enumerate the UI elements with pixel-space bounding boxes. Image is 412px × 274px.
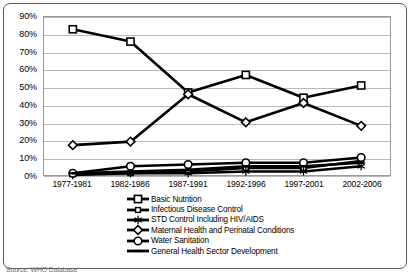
- data-point-marker: [358, 82, 365, 89]
- legend-item-label: Basic Nutrition: [151, 195, 202, 204]
- legend-item[interactable]: Basic Nutrition: [126, 194, 396, 204]
- chart-figure: 0%10%20%30%40%50%60%70%80%90% 1977-19811…: [0, 0, 412, 274]
- legend-item[interactable]: General Health Sector Development: [126, 246, 396, 256]
- data-point-marker: [134, 196, 141, 203]
- data-point-marker: [136, 207, 141, 212]
- x-axis-tick-label: 1982-1986: [111, 179, 150, 190]
- data-point-marker: [357, 154, 365, 162]
- legend-dash-icon: [126, 246, 150, 256]
- series-line: [73, 94, 361, 145]
- x-axis: 1977-19811982-19861987-19911992-19961997…: [43, 179, 391, 193]
- data-point-marker: [242, 71, 249, 78]
- data-point-marker: [68, 141, 77, 150]
- data-point-marker: [241, 118, 250, 127]
- y-axis-tick-label: 90%: [19, 12, 37, 21]
- x-axis-tick-label: 1987-1991: [169, 179, 208, 190]
- legend-item-label: Maternal Health and Perinatal Conditions: [151, 226, 294, 235]
- legend-item[interactable]: Water Sanitation: [126, 236, 396, 246]
- legend-item-label: STD Control Including HIV/AIDS: [151, 215, 264, 224]
- data-point-marker: [134, 226, 143, 235]
- y-axis-tick-label: 50%: [19, 83, 37, 92]
- x-axis-tick-label: 1992-1996: [227, 179, 266, 190]
- data-point-marker: [357, 121, 366, 130]
- data-point-marker: [127, 38, 134, 45]
- y-axis-tick-label: 80%: [19, 29, 37, 38]
- series-basic-nutrition: [69, 26, 364, 102]
- legend-item[interactable]: Maternal Health and Perinatal Conditions: [126, 225, 396, 235]
- y-axis-tick-label: 0%: [24, 172, 37, 181]
- source-note: Source: WHO Database: [6, 266, 77, 274]
- x-axis-tick-label: 2002-2006: [343, 179, 382, 190]
- chart-legend: Basic NutritionInfectious Disease Contro…: [126, 194, 396, 256]
- data-point-marker: [127, 162, 135, 170]
- x-axis-tick-label: 1997-2001: [285, 179, 324, 190]
- y-axis: 0%10%20%30%40%50%60%70%80%90%: [7, 16, 41, 176]
- legend-item[interactable]: Infectious Disease Control: [126, 204, 396, 214]
- series-line: [73, 29, 361, 97]
- legend-circle-hollow-icon: [126, 236, 150, 246]
- y-axis-tick-label: 60%: [19, 65, 37, 74]
- legend-item[interactable]: STD Control Including HIV/AIDS: [126, 215, 396, 225]
- y-axis-tick-label: 20%: [19, 136, 37, 145]
- y-axis-tick-label: 40%: [19, 100, 37, 109]
- series-maternal-health-and-perinatal-conditions: [68, 90, 365, 150]
- legend-square-hollow-small-icon: [126, 205, 150, 215]
- y-axis-tick-label: 70%: [19, 47, 37, 56]
- legend-item-label: Infectious Disease Control: [151, 205, 243, 214]
- x-axis-tick-label: 1977-1981: [53, 179, 92, 190]
- data-point-marker: [184, 161, 192, 169]
- data-point-marker: [134, 237, 142, 245]
- series-layer: [44, 17, 390, 175]
- y-axis-tick-label: 30%: [19, 118, 37, 127]
- gridline: [44, 176, 390, 177]
- legend-asterisk-icon: [126, 215, 150, 225]
- plot-area: [43, 16, 391, 176]
- line-chart: 0%10%20%30%40%50%60%70%80%90% 1977-19811…: [7, 7, 401, 193]
- legend-square-hollow-icon: [126, 194, 150, 204]
- y-axis-tick-label: 10%: [19, 154, 37, 163]
- legend-item-label: Water Sanitation: [151, 236, 209, 245]
- data-point-marker: [69, 26, 76, 33]
- legend-item-label: General Health Sector Development: [151, 247, 278, 256]
- legend-diamond-hollow-icon: [126, 225, 150, 235]
